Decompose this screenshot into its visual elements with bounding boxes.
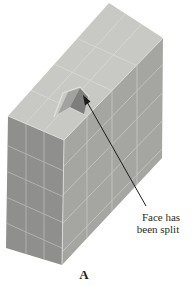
annotation-text-line2: been split bbox=[137, 223, 179, 235]
figure-panel: Face has been split A bbox=[0, 0, 195, 286]
crystal-block-diagram: Face has been split A bbox=[0, 0, 195, 286]
annotation-text-line1: Face has bbox=[142, 211, 180, 223]
block-front-face bbox=[6, 116, 64, 265]
panel-label: A bbox=[79, 267, 89, 282]
